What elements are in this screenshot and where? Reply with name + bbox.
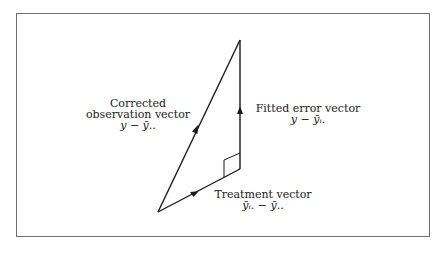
treatment-label: Treatment vector ȳᵢ. − ȳ.. — [212, 189, 314, 211]
vector-triangle — [0, 0, 448, 255]
math-expression: y − ȳ.. — [82, 120, 194, 131]
corrected-observation-label: Corrected observation vector y − ȳ.. — [82, 98, 194, 131]
fitted-error-label: Fitted error vector y − ȳᵢ. — [252, 103, 364, 125]
arrowhead-icon — [190, 189, 200, 198]
arrowhead-icon — [237, 106, 243, 114]
math-expression: y − ȳᵢ. — [252, 114, 364, 125]
math-expression: ȳᵢ. − ȳ.. — [212, 200, 314, 211]
